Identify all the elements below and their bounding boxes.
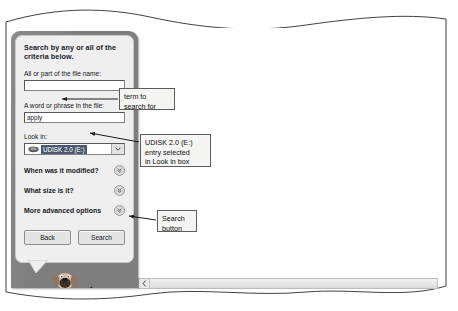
- annotation-udisk-selected: UDISK 2.0 (E:) entry selected in Look in…: [140, 134, 211, 167]
- chevron-double-down-icon[interactable]: [114, 205, 125, 216]
- search-button[interactable]: Search: [78, 230, 125, 245]
- section-what-size[interactable]: What size is it?: [24, 185, 125, 196]
- chevron-down-icon[interactable]: [111, 144, 124, 154]
- back-button[interactable]: Back: [24, 230, 71, 245]
- removable-disk-icon: [27, 145, 39, 153]
- speech-bubble-tail: [27, 260, 49, 274]
- section-advanced-options[interactable]: More advanced options: [24, 205, 125, 216]
- search-companion-dog[interactable]: [49, 269, 85, 288]
- section-what-size-label: What size is it?: [24, 186, 74, 195]
- look-in-selected-value: UDISK 2.0 (E:): [41, 145, 87, 154]
- section-when-modified-label: When was it modified?: [24, 166, 99, 175]
- figure-canvas: Search by any or all of the criteria bel…: [0, 0, 458, 311]
- page-title: Search by any or all of the criteria bel…: [24, 43, 125, 61]
- section-when-modified[interactable]: When was it modified?: [24, 165, 125, 176]
- chevron-double-down-icon[interactable]: [114, 165, 125, 176]
- file-name-label: All or part of the file name:: [24, 69, 125, 78]
- chevron-left-icon[interactable]: [139, 279, 150, 288]
- word-phrase-input[interactable]: apply: [24, 112, 125, 123]
- search-companion-panel: Search by any or all of the criteria bel…: [11, 31, 138, 288]
- look-in-label: Look in:: [24, 132, 125, 141]
- look-in-combobox[interactable]: UDISK 2.0 (E:): [24, 143, 125, 155]
- action-button-row: Back Search: [24, 230, 125, 245]
- word-phrase-label: A word or phrase in the file:: [24, 101, 125, 110]
- scrollbar-track[interactable]: [150, 279, 437, 288]
- file-name-input[interactable]: [24, 80, 125, 91]
- horizontal-scrollbar[interactable]: [138, 278, 438, 289]
- annotation-term-to-search-for: term to search for: [119, 88, 175, 110]
- chevron-double-down-icon[interactable]: [114, 185, 125, 196]
- mouse-pointer-icon: [90, 286, 101, 288]
- search-criteria-card: Search by any or all of the criteria bel…: [15, 35, 134, 263]
- annotation-search-button: Search button: [157, 210, 197, 232]
- section-advanced-options-label: More advanced options: [24, 206, 101, 215]
